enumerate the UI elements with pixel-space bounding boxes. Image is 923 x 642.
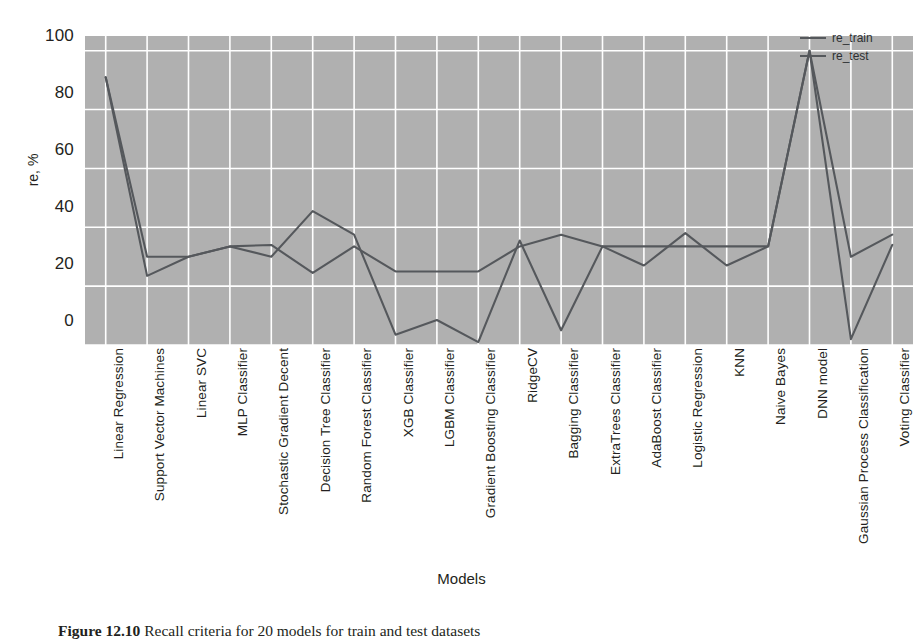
- x-tick-label: Voting Classifier: [897, 348, 912, 447]
- figure-container: 100 80 60 40 20 0 re, % re_train re_test: [0, 0, 923, 642]
- legend-line-icon: [800, 37, 826, 39]
- figure-caption: Figure 12.10 Recall criteria for 20 mode…: [58, 622, 898, 640]
- x-tick-label: DNN model: [815, 348, 830, 419]
- x-tick-label: KNN: [732, 348, 747, 377]
- x-tick-label: Linear Regression: [111, 348, 126, 459]
- x-tick-label: Stochastic Gradient Decent: [276, 348, 291, 515]
- x-tick-label: RidgeCV: [525, 348, 540, 403]
- chart-plot-area: 100 80 60 40 20 0 re, % re_train re_test: [0, 0, 923, 600]
- legend-item-re-test[interactable]: re_test: [800, 48, 912, 64]
- plot-background: [85, 36, 913, 345]
- legend-item-re-train[interactable]: re_train: [800, 30, 912, 46]
- x-tick-label: Logistic Regression: [690, 348, 705, 468]
- x-axis-ticks: Linear RegressionSupport Vector Machines…: [0, 348, 923, 568]
- x-tick-label: Decision Tree Classifier: [318, 348, 333, 492]
- x-tick-label: Gaussian Process Classification: [856, 348, 871, 544]
- x-tick-label: Support Vector Machines: [152, 348, 167, 501]
- x-tick-label: Gradient Boosting Classifier: [483, 348, 498, 518]
- x-tick-label: LGBM Classifier: [442, 348, 457, 447]
- x-tick-label: Linear SVC: [194, 348, 209, 418]
- x-tick-label: MLP Classifier: [235, 348, 250, 436]
- legend-label-re-test: re_test: [832, 49, 869, 63]
- x-tick-label: Naive Bayes: [773, 348, 788, 425]
- line-chart-svg: [0, 0, 923, 360]
- legend-line-icon: [800, 55, 826, 57]
- x-tick-label: Random Forest Classifier: [359, 348, 374, 503]
- x-tick-label: ExtraTrees Classifier: [608, 348, 623, 475]
- figure-caption-text: Recall criteria for 20 models for train …: [144, 622, 480, 639]
- chart-legend: re_train re_test: [800, 30, 912, 66]
- x-tick-label: Bagging Classifier: [566, 348, 581, 459]
- x-tick-label: AdaBoost Classifier: [649, 348, 664, 468]
- figure-caption-label: Figure 12.10: [58, 622, 140, 639]
- x-tick-label: XGB Classifier: [401, 348, 416, 437]
- x-axis-title: Models: [0, 570, 923, 587]
- legend-label-re-train: re_train: [832, 31, 873, 45]
